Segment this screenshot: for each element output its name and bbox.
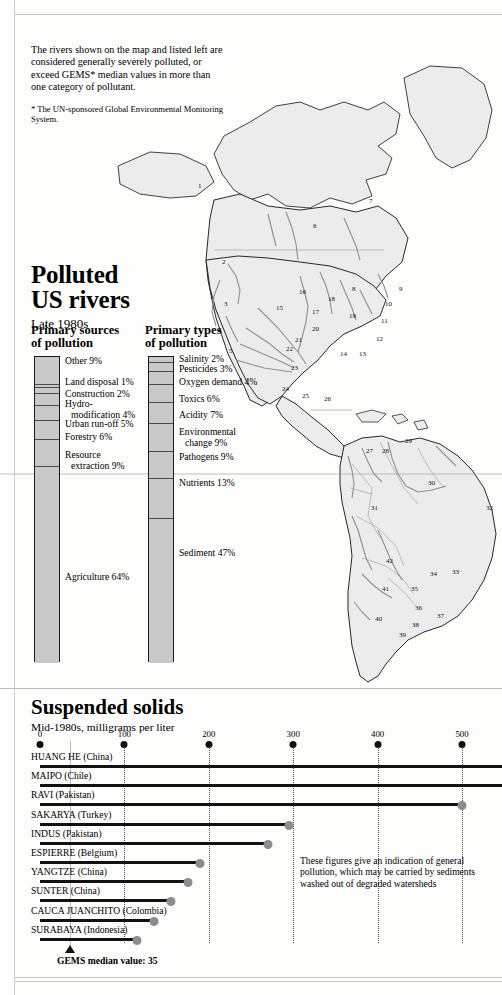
svg-text:14: 14 bbox=[340, 350, 348, 358]
river-row[interactable]: INDUS (Pakistan) bbox=[0, 828, 502, 849]
svg-text:29: 29 bbox=[405, 437, 413, 445]
sources-segment-label: Forestry 6% bbox=[65, 432, 112, 443]
types-segment-label: Pathogens 9% bbox=[179, 452, 234, 463]
types-segment-label: Sediment 47% bbox=[179, 548, 235, 559]
svg-text:32: 32 bbox=[486, 504, 494, 512]
svg-text:10: 10 bbox=[385, 300, 393, 308]
svg-text:21: 21 bbox=[295, 336, 303, 344]
svg-text:1: 1 bbox=[198, 182, 202, 190]
svg-text:27: 27 bbox=[366, 447, 374, 455]
page-title-line2: US rivers bbox=[31, 287, 271, 312]
river-label: HUANG HE (China) bbox=[31, 751, 113, 762]
axis-tick-label: 0 bbox=[38, 729, 42, 739]
axis-tick-dot bbox=[37, 741, 44, 748]
river-bar bbox=[40, 842, 268, 845]
svg-text:8: 8 bbox=[352, 285, 356, 293]
river-bar bbox=[40, 899, 171, 902]
types-segment bbox=[149, 372, 173, 384]
sources-segment bbox=[35, 394, 59, 406]
types-stacked-bar bbox=[148, 356, 174, 662]
bottom-rule-2 bbox=[14, 981, 502, 982]
sources-stacked-bar bbox=[34, 356, 60, 662]
sources-segment-label: Resourceextraction 9% bbox=[65, 450, 125, 471]
gems-median-label: GEMS median value: 35 bbox=[57, 955, 157, 966]
svg-text:19: 19 bbox=[349, 312, 357, 320]
river-label: SUNTER (China) bbox=[31, 885, 100, 896]
svg-text:31: 31 bbox=[371, 504, 379, 512]
river-row[interactable]: RAVI (Pakistan) bbox=[0, 789, 502, 810]
svg-text:18: 18 bbox=[328, 295, 336, 303]
top-rule bbox=[14, 14, 502, 15]
axis-tick-label: 100 bbox=[118, 729, 131, 739]
svg-text:12: 12 bbox=[376, 335, 384, 343]
sources-bar-wrap bbox=[34, 356, 60, 662]
river-bar bbox=[40, 765, 502, 768]
sources-heading-line2: of pollution bbox=[31, 337, 141, 350]
svg-text:20: 20 bbox=[312, 325, 320, 333]
svg-text:25: 25 bbox=[302, 392, 310, 400]
types-bar-wrap bbox=[148, 356, 174, 662]
river-label: SURABAYA (Indonesia) bbox=[31, 924, 127, 935]
map-landmasses bbox=[118, 66, 496, 682]
river-value-dot bbox=[133, 936, 142, 945]
svg-text:37: 37 bbox=[437, 612, 445, 620]
svg-text:40: 40 bbox=[375, 615, 383, 623]
river-bar bbox=[40, 861, 200, 864]
sources-segment bbox=[35, 421, 59, 439]
river-bar bbox=[40, 784, 502, 787]
river-row[interactable]: SURABAYA (Indonesia) bbox=[0, 924, 502, 945]
types-segment-label: Pesticides 3% bbox=[179, 364, 233, 375]
sources-heading-line1: Primary sources bbox=[31, 324, 141, 337]
axis-tick-label: 400 bbox=[371, 729, 384, 739]
river-row[interactable]: HUANG HE (China) bbox=[0, 751, 502, 772]
sources-segment bbox=[35, 467, 59, 663]
river-row[interactable]: CAUCA JUANCHITO (Colombia) bbox=[0, 905, 502, 926]
svg-text:41: 41 bbox=[382, 585, 390, 593]
svg-text:39: 39 bbox=[399, 631, 407, 639]
types-segment-label: Toxics 6% bbox=[179, 394, 220, 405]
river-bar bbox=[40, 803, 462, 806]
svg-text:9: 9 bbox=[399, 285, 403, 293]
svg-text:28: 28 bbox=[382, 447, 390, 455]
river-bar bbox=[40, 938, 137, 941]
svg-text:24: 24 bbox=[282, 385, 290, 393]
sources-chart: Primary sources of pollution Other 9%Lan… bbox=[31, 324, 141, 351]
intro-body: The rivers shown on the map and listed l… bbox=[31, 44, 223, 94]
svg-text:33: 33 bbox=[452, 568, 460, 576]
svg-text:16: 16 bbox=[299, 288, 307, 296]
river-label: RAVI (Pakistan) bbox=[31, 789, 95, 800]
river-label: ESPIERRE (Belgium) bbox=[31, 847, 117, 858]
svg-text:22: 22 bbox=[286, 345, 294, 353]
types-heading-line1: Primary types bbox=[145, 324, 275, 337]
river-label: CAUCA JUANCHITO (Colombia) bbox=[31, 905, 167, 916]
svg-text:42: 42 bbox=[386, 557, 394, 565]
river-row[interactable]: SAKARYA (Turkey) bbox=[0, 809, 502, 830]
sources-segment-label: Agriculture 64% bbox=[65, 572, 129, 583]
svg-text:13: 13 bbox=[359, 350, 367, 358]
svg-text:11: 11 bbox=[381, 317, 388, 325]
types-chart: Primary types of pollution Salinity 2%Pe… bbox=[145, 324, 275, 351]
svg-text:7: 7 bbox=[369, 197, 373, 205]
svg-text:15: 15 bbox=[276, 304, 284, 312]
axis-tick-label: 500 bbox=[455, 729, 468, 739]
svg-text:6: 6 bbox=[313, 222, 317, 230]
river-row[interactable]: MAIPO (Chile) bbox=[0, 770, 502, 791]
types-segment-label: Environmentalchange 9% bbox=[179, 427, 236, 448]
intro-footnote: * The UN-sponsored Global Environmental … bbox=[31, 104, 223, 125]
sources-segment bbox=[35, 440, 59, 468]
page-title-line1: Polluted bbox=[31, 262, 271, 287]
types-segment bbox=[149, 452, 173, 480]
svg-text:30: 30 bbox=[428, 479, 436, 487]
axis-tick-label: 200 bbox=[202, 729, 215, 739]
river-label: YANGTZE (China) bbox=[31, 866, 107, 877]
sources-segment-label: Land disposal 1% bbox=[65, 377, 134, 388]
bottom-rule-1 bbox=[14, 977, 502, 978]
types-segment bbox=[149, 479, 173, 519]
river-label: SAKARYA (Turkey) bbox=[31, 809, 111, 820]
types-segment bbox=[149, 424, 173, 452]
suspended-solids-note: These figures give an indication of gene… bbox=[300, 855, 492, 889]
river-label: INDUS (Pakistan) bbox=[31, 828, 102, 839]
types-segment bbox=[149, 403, 173, 424]
types-segment bbox=[149, 363, 173, 372]
river-bar bbox=[40, 823, 289, 826]
